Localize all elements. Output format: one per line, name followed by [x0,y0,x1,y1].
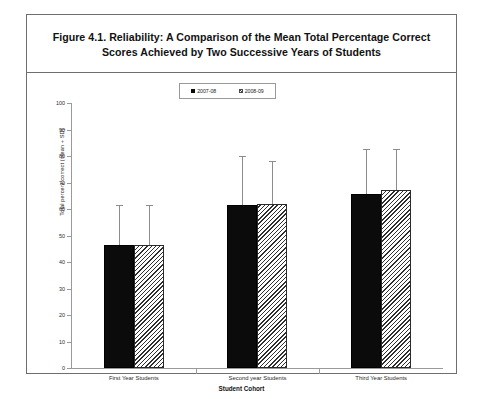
bar-2007-08[interactable] [227,205,257,368]
bar-group [319,103,443,368]
error-bar-cap [146,205,153,206]
y-tick-label: 20 [29,312,65,318]
error-bar-cap [363,149,370,150]
plot-area: Total percent correct (mean + SD) 010203… [27,73,456,373]
error-bar-cap [239,156,246,157]
legend-entry[interactable]: 2007-08 [191,88,216,94]
y-tick-label: 50 [29,233,65,239]
error-bar [396,149,397,190]
error-bar [149,205,150,245]
chart-legend: 2007-082008-09 [179,83,276,99]
y-tick-label: 0 [29,365,65,371]
category-label: Second year Students [196,375,320,381]
figure-title-band: Figure 4.1. Reliability: A Comparison of… [27,15,456,73]
x-tick [196,369,197,374]
bar-2008-09[interactable] [134,245,164,368]
legend-label: 2007-08 [197,88,216,94]
bar-2007-08[interactable] [104,245,134,368]
legend-swatch-icon [239,89,243,93]
x-axis-title: Student Cohort [27,385,456,392]
error-bar-cap [393,149,400,150]
bars-layer [72,103,443,368]
legend-swatch-icon [191,89,195,93]
category-label: First Year Students [72,375,196,381]
category-label: Third Year Students [319,375,443,381]
y-tick-label: 80 [29,153,65,159]
error-bar [119,205,120,245]
bar-group [196,103,320,368]
bar-2008-09[interactable] [257,204,287,368]
y-tick-label: 60 [29,206,65,212]
y-tick-label: 100 [29,100,65,106]
bar-group [72,103,196,368]
error-bar [242,156,243,205]
error-bar [366,149,367,194]
y-tick [67,368,72,369]
error-bar [272,161,273,203]
x-axis-line [71,368,443,369]
error-bar-cap [269,161,276,162]
y-tick-label: 40 [29,259,65,265]
y-tick-label: 30 [29,286,65,292]
x-tick [319,369,320,374]
bar-2007-08[interactable] [351,194,381,368]
error-bar-cap [116,205,123,206]
bar-2008-09[interactable] [381,190,411,368]
y-tick-label: 90 [29,127,65,133]
y-tick-label: 10 [29,339,65,345]
figure-frame: Figure 4.1. Reliability: A Comparison of… [26,14,457,374]
legend-label: 2008-09 [245,88,264,94]
legend-entry[interactable]: 2008-09 [239,88,264,94]
page-title: Figure 4.1. Reliability: A Comparison of… [37,30,446,60]
y-tick-label: 70 [29,180,65,186]
